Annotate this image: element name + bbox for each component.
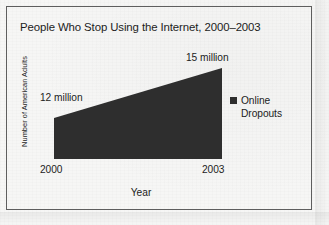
legend-label-line-1: Online xyxy=(241,94,282,107)
data-label-2000: 12 million xyxy=(40,91,83,104)
legend-swatch-online-dropouts xyxy=(230,97,237,104)
x-axis-label: Year xyxy=(96,186,186,199)
chart-screenshot: People Who Stop Using the Internet, 2000… xyxy=(0,0,329,225)
page-edge-shadow-bottom xyxy=(0,212,329,225)
chart-legend: Online Dropouts xyxy=(230,94,282,120)
chart-title: People Who Stop Using the Internet, 2000… xyxy=(20,20,306,35)
legend-label-line-2: Dropouts xyxy=(241,107,282,120)
legend-entry-label: Online Dropouts xyxy=(241,94,282,120)
y-axis-label: Number of American Adults xyxy=(20,42,29,162)
x-axis-tick-2000: 2000 xyxy=(40,163,62,176)
page-edge-shadow-right xyxy=(315,0,329,225)
x-axis-tick-2003: 2003 xyxy=(202,163,224,176)
data-label-2003: 15 million xyxy=(186,51,229,64)
